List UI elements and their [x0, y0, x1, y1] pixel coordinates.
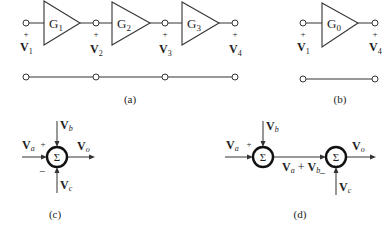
- panel-b: G0 + + V1 V4 (b): [297, 3, 382, 106]
- caption-d: (d): [294, 208, 307, 221]
- polarity-plus: +: [162, 29, 167, 39]
- block-diagram-figure: G1 G2 G3 + + + + V1 V2 V3 V4 (a) G0: [0, 0, 392, 231]
- polarity-plus: +: [232, 29, 237, 39]
- terminal-v3-bottom: [162, 74, 168, 80]
- terminal-v4-bottom: [232, 74, 238, 80]
- sigma-symbol: Σ: [260, 151, 266, 163]
- voltage-label-v2: V2: [90, 42, 103, 58]
- terminal-v2-bottom: [93, 74, 99, 80]
- voltage-label-v1: V1: [297, 40, 310, 56]
- caption-a: (a): [124, 93, 137, 106]
- output-label-vo: Vo: [352, 139, 365, 154]
- input-label-va: Va: [22, 138, 35, 153]
- sigma-symbol: Σ: [333, 151, 339, 163]
- terminal-v4-bottom: [372, 76, 378, 82]
- panel-d: Σ Σ Va + Vb Va + Vb Vo − Vc (d): [225, 119, 376, 221]
- terminal-v1-bottom: [23, 74, 29, 80]
- sign-plus: +: [246, 139, 251, 149]
- sigma-symbol: Σ: [54, 151, 60, 163]
- polarity-plus: +: [372, 29, 377, 39]
- voltage-label-v3: V3: [159, 42, 172, 58]
- sign-minus: −: [319, 167, 325, 179]
- terminal-v1-bottom: [300, 76, 306, 82]
- input-label-vc: Vc: [60, 178, 73, 193]
- arrowhead-icon: [89, 155, 95, 160]
- terminal-v2-top: [93, 20, 99, 26]
- voltage-label-v4: V4: [229, 42, 242, 58]
- terminal-v4-top: [372, 20, 378, 26]
- panel-a: G1 G2 G3 + + + + V1 V2 V3 V4 (a): [20, 1, 242, 106]
- input-label-vc: Vc: [339, 180, 352, 195]
- panel-c: Σ Va + Vb Vo − Vc (c): [22, 118, 95, 221]
- arrowhead-icon: [370, 155, 376, 160]
- voltage-label-v1: V1: [20, 40, 33, 56]
- sign-minus: −: [39, 165, 45, 177]
- polarity-plus: +: [300, 29, 305, 39]
- sign-plus: +: [40, 139, 45, 149]
- terminal-v1-top: [23, 20, 29, 26]
- intermediate-label: Va + Vb: [282, 160, 320, 175]
- input-label-va: Va: [226, 138, 239, 153]
- caption-c: (c): [49, 208, 62, 221]
- voltage-label-v4: V4: [369, 40, 382, 56]
- polarity-plus: +: [23, 29, 28, 39]
- input-label-vb: Vb: [60, 118, 73, 133]
- terminal-v4-top: [232, 20, 238, 26]
- caption-b: (b): [334, 93, 347, 106]
- polarity-plus: +: [93, 29, 98, 39]
- output-label-vo: Vo: [77, 139, 90, 154]
- terminal-v3-top: [162, 20, 168, 26]
- terminal-v1-top: [300, 20, 306, 26]
- input-label-vb: Vb: [266, 119, 279, 134]
